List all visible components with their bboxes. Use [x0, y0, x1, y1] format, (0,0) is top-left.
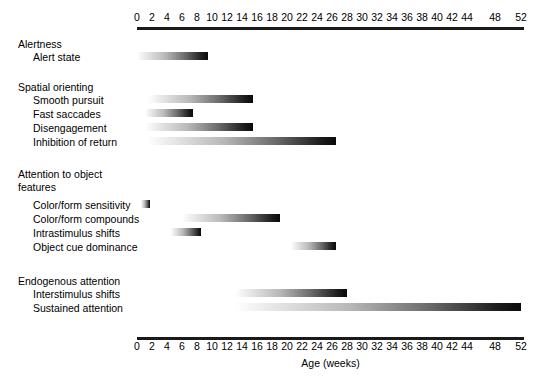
top-axis-tick-40: 40: [431, 11, 443, 24]
top-axis-tick-26: 26: [326, 11, 338, 24]
top-axis-tick-48: 48: [489, 11, 501, 24]
top-axis-tick-44: 44: [461, 11, 473, 24]
bar-interstimulus-shifts: [235, 289, 348, 297]
bar-disengagement: [145, 123, 254, 131]
top-axis-tick-52: 52: [515, 11, 527, 24]
bottom-axis-tick-32: 32: [371, 340, 383, 353]
bottom-axis-tick-48: 48: [489, 340, 501, 353]
top-axis-tick-30: 30: [356, 11, 368, 24]
top-axis-tick-16: 16: [251, 11, 263, 24]
x-axis-title: Age (weeks): [137, 357, 524, 369]
item-label-object-cue-dominance: Object cue dominance: [33, 241, 137, 254]
bottom-axis-tick-44: 44: [461, 340, 473, 353]
bottom-axis-tick-14: 14: [236, 340, 248, 353]
bar-color-form-sensitivity: [141, 200, 150, 208]
top-axis-line: [137, 27, 524, 30]
top-axis-tick-36: 36: [401, 11, 413, 24]
bar-alert-state: [137, 52, 208, 60]
bottom-axis-tick-42: 42: [446, 340, 458, 353]
top-axis-tick-32: 32: [371, 11, 383, 24]
bottom-axis-tick-4: 4: [164, 340, 170, 353]
top-axis-tick-14: 14: [236, 11, 248, 24]
top-axis-tick-6: 6: [179, 11, 185, 24]
bar-inhibition-of-return: [148, 137, 336, 145]
bottom-axis-tick-6: 6: [179, 340, 185, 353]
bar-smooth-pursuit: [148, 95, 253, 103]
top-axis-tick-8: 8: [194, 11, 200, 24]
bottom-axis-tick-30: 30: [356, 340, 368, 353]
top-axis-tick-10: 10: [206, 11, 218, 24]
bottom-axis-tick-38: 38: [416, 340, 428, 353]
bottom-axis-tick-18: 18: [266, 340, 278, 353]
bottom-axis-tick-8: 8: [194, 340, 200, 353]
group-label-endogenous-attention: Endogenous attention: [18, 275, 120, 288]
item-label-inhibition-of-return: Inhibition of return: [33, 136, 117, 149]
bottom-axis-tick-34: 34: [386, 340, 398, 353]
top-axis-tick-0: 0: [134, 11, 140, 24]
bottom-axis-tick-22: 22: [296, 340, 308, 353]
item-label-smooth-pursuit: Smooth pursuit: [33, 94, 104, 107]
top-axis-tick-2: 2: [149, 11, 155, 24]
item-label-interstimulus-shifts: Interstimulus shifts: [33, 288, 120, 301]
group-label-alertness: Alertness: [18, 38, 62, 51]
bottom-axis-tick-labels: 0246810121416182022242628303234363840424…: [0, 340, 536, 353]
item-label-fast-saccades: Fast saccades: [33, 108, 101, 121]
group-label-spatial-orienting: Spatial orienting: [18, 81, 93, 94]
bottom-axis-tick-36: 36: [401, 340, 413, 353]
bottom-axis-tick-40: 40: [431, 340, 443, 353]
top-axis-tick-4: 4: [164, 11, 170, 24]
bar-fast-saccades: [145, 109, 194, 117]
item-label-intrastimulus-shifts: Intrastimulus shifts: [33, 227, 120, 240]
bottom-axis-tick-24: 24: [311, 340, 323, 353]
top-axis-tick-12: 12: [221, 11, 233, 24]
item-label-sustained-attention: Sustained attention: [33, 302, 123, 315]
bottom-axis-tick-16: 16: [251, 340, 263, 353]
top-axis-tick-42: 42: [446, 11, 458, 24]
bottom-axis-tick-52: 52: [515, 340, 527, 353]
group-label-attention-to-object-features: Attention to object features: [18, 168, 102, 193]
bottom-axis-tick-12: 12: [221, 340, 233, 353]
top-axis-tick-20: 20: [281, 11, 293, 24]
item-label-alert-state: Alert state: [33, 51, 80, 64]
attention-development-chart: 0246810121416182022242628303234363840424…: [0, 0, 536, 377]
bottom-axis-tick-10: 10: [206, 340, 218, 353]
top-axis-tick-24: 24: [311, 11, 323, 24]
bottom-axis-tick-20: 20: [281, 340, 293, 353]
bar-intrastimulus-shifts: [171, 228, 201, 236]
top-axis-tick-28: 28: [341, 11, 353, 24]
top-axis-tick-34: 34: [386, 11, 398, 24]
top-axis-tick-18: 18: [266, 11, 278, 24]
top-axis-tick-labels: 0246810121416182022242628303234363840424…: [0, 11, 536, 24]
bottom-axis-tick-2: 2: [149, 340, 155, 353]
bar-object-cue-dominance: [291, 242, 336, 250]
bottom-axis-tick-26: 26: [326, 340, 338, 353]
top-axis-tick-38: 38: [416, 11, 428, 24]
item-label-color-form-sensitivity: Color/form sensitivity: [33, 199, 130, 212]
item-label-disengagement: Disengagement: [33, 122, 107, 135]
top-axis-tick-22: 22: [296, 11, 308, 24]
bottom-axis-tick-0: 0: [134, 340, 140, 353]
item-label-color-form-compounds: Color/form compounds: [33, 213, 139, 226]
bar-color-form-compounds: [182, 214, 280, 222]
bar-sustained-attention: [235, 303, 522, 311]
bottom-axis-tick-28: 28: [341, 340, 353, 353]
